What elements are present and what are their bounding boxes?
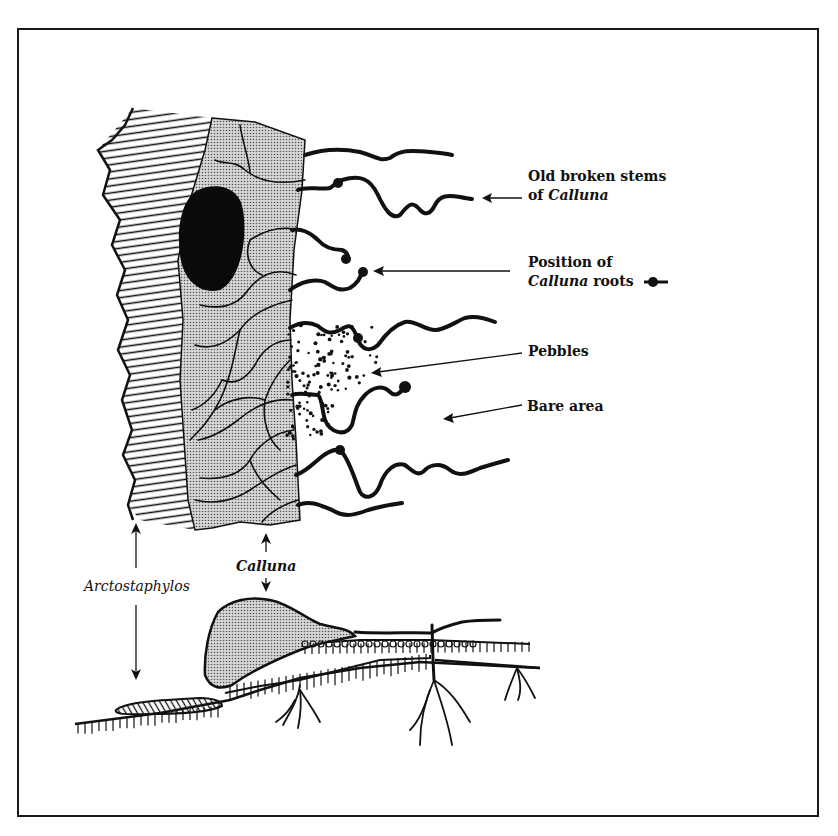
pebble: [337, 389, 340, 392]
label-old-stems-line2: of Calluna: [528, 187, 609, 204]
pebble: [285, 434, 288, 437]
pebble: [364, 340, 367, 343]
pebble: [333, 384, 336, 387]
pebble: [319, 385, 323, 389]
stem-6: [292, 386, 404, 432]
diagram-canvas: [0, 0, 838, 836]
arctostaphylos-stem: [116, 698, 222, 714]
pebble: [346, 332, 349, 335]
stem-5: [290, 317, 495, 349]
pebble: [316, 363, 320, 367]
pebble-circle: [438, 641, 444, 647]
label-old-stems-calluna: Calluna: [548, 187, 608, 203]
pebble: [355, 375, 359, 379]
pebble: [322, 359, 326, 363]
label-old-stems-prefix: of: [528, 187, 548, 203]
pebble: [292, 426, 295, 429]
calluna-stems: [290, 150, 508, 515]
pebble: [327, 382, 331, 386]
pebble-circle: [422, 641, 428, 647]
pebble: [294, 374, 298, 378]
arrow-bare-area: [450, 405, 522, 418]
pebble: [291, 434, 295, 438]
soil-hatch-ticks: [78, 642, 529, 734]
pebble: [338, 334, 341, 337]
pebble-circle: [366, 641, 372, 647]
pebble: [286, 392, 289, 395]
label-old-stems-line1: Old broken stems: [528, 168, 666, 185]
stem-2: [298, 178, 472, 216]
pebble: [309, 411, 313, 415]
pebble: [328, 338, 332, 342]
calluna-mat: [178, 118, 305, 530]
stem-3: [292, 229, 348, 260]
pebble: [306, 383, 309, 386]
pebble: [327, 352, 331, 356]
pebble: [337, 380, 340, 383]
pebble: [289, 409, 292, 412]
pebble: [341, 362, 344, 365]
pebble: [297, 340, 300, 343]
pebble: [290, 345, 293, 348]
pebble: [316, 332, 320, 336]
pebble: [345, 368, 349, 372]
pebble: [287, 368, 290, 371]
pebble: [340, 340, 344, 344]
pebble: [374, 361, 377, 364]
pebble-circle: [382, 641, 388, 647]
label-pebbles: Pebbles: [528, 343, 589, 360]
pebble: [294, 370, 297, 373]
pebble: [296, 349, 299, 352]
pebble: [330, 404, 334, 408]
pebble: [303, 384, 306, 387]
pebble: [332, 362, 334, 364]
pebble: [322, 356, 324, 358]
pebble: [330, 377, 332, 379]
pebble-circle: [390, 641, 396, 647]
pebble: [306, 425, 309, 428]
pebble-circle: [446, 641, 452, 647]
pebble: [301, 372, 304, 375]
pebble: [292, 329, 295, 332]
pebble: [298, 379, 301, 382]
pebble: [324, 404, 328, 408]
pebble: [346, 350, 350, 354]
label-position-line2: Calluna roots: [528, 273, 634, 290]
pebble: [343, 335, 346, 338]
pebble: [312, 428, 315, 431]
pebble: [286, 381, 289, 384]
pebble: [298, 412, 301, 415]
pebble: [323, 334, 326, 337]
pebble: [326, 374, 329, 377]
pebble: [320, 334, 323, 337]
label-arctostaphylos: Arctostaphylos: [84, 578, 190, 595]
pebble: [330, 388, 333, 391]
pebble: [347, 364, 351, 368]
pebble: [303, 407, 306, 410]
pebble: [308, 380, 311, 383]
root-legend-symbol: [644, 277, 668, 287]
pebble: [358, 381, 361, 384]
pebble: [309, 434, 311, 436]
pebble: [370, 326, 373, 329]
pebble: [292, 364, 295, 367]
arrow-pebbles: [378, 353, 522, 372]
pebble: [334, 372, 337, 375]
pebble: [316, 371, 320, 375]
root-dot: [353, 333, 363, 343]
label-position-line1: Position of: [528, 254, 612, 271]
pebble: [331, 372, 334, 375]
pebble: [335, 325, 339, 329]
pebble: [295, 404, 299, 408]
label-position-calluna: Calluna: [528, 273, 588, 289]
pebble: [286, 385, 289, 388]
label-position-roots: roots: [588, 273, 633, 289]
pebble: [287, 333, 289, 335]
pebble: [344, 354, 347, 357]
pebble: [319, 429, 323, 433]
stem-4: [290, 272, 362, 290]
pebble: [306, 386, 309, 389]
pebble: [316, 350, 320, 354]
pebble: [312, 373, 316, 377]
pebble: [306, 401, 309, 404]
